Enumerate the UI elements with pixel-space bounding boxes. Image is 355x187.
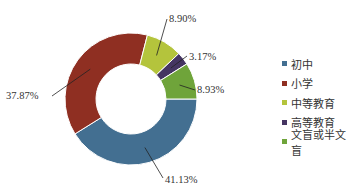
legend-swatch <box>282 61 287 66</box>
legend-label: 中等教育 <box>291 95 335 111</box>
data-label-2: 8.90% <box>169 13 196 24</box>
legend-swatch <box>282 100 287 105</box>
data-label-1: 37.87% <box>6 90 39 101</box>
legend-item: 中等教育 <box>282 93 355 113</box>
data-label-4: 8.93% <box>197 84 224 95</box>
legend-swatch <box>282 139 287 144</box>
data-label-0: 41.13% <box>165 174 198 185</box>
legend-item: 初中 <box>282 54 355 74</box>
slices <box>65 33 197 165</box>
legend-item: 小学 <box>282 74 355 94</box>
legend-label: 小学 <box>291 75 313 91</box>
data-label-3: 3.17% <box>189 51 216 62</box>
legend-label: 初中 <box>291 56 313 72</box>
slice-1 <box>65 33 147 134</box>
legend-swatch <box>282 81 287 86</box>
legend-label: 文盲或半文盲 <box>291 126 355 158</box>
legend-swatch <box>282 120 287 125</box>
legend-item: 文盲或半文盲 <box>282 132 355 152</box>
legend: 初中 小学 中等教育 高等教育 文盲或半文盲 <box>282 54 355 152</box>
